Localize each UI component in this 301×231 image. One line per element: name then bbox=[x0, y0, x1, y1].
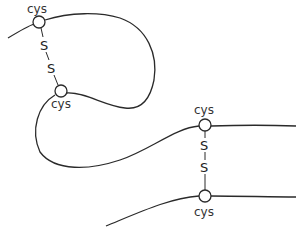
cys-label: cys bbox=[27, 2, 47, 16]
cys-residue-circle bbox=[55, 85, 67, 97]
cys-residue-circle bbox=[199, 119, 211, 131]
bond-line bbox=[41, 28, 43, 37]
bond-line bbox=[54, 75, 58, 85]
cys-label: cys bbox=[51, 97, 71, 111]
sulfur-label: S bbox=[47, 61, 55, 76]
sulfur-label: S bbox=[200, 138, 208, 153]
sulfur-label: S bbox=[40, 38, 48, 53]
cys-residue-circle bbox=[33, 16, 45, 28]
sulfur-label: S bbox=[200, 160, 208, 175]
disulfide-bond-diagram: cys S S cys cys S S cys bbox=[0, 0, 301, 231]
cys-label: cys bbox=[194, 205, 214, 219]
cys-residue-circle bbox=[199, 190, 211, 202]
cys-label: cys bbox=[194, 103, 214, 117]
polypeptide-chain-1 bbox=[8, 14, 296, 168]
bond-line bbox=[46, 52, 49, 60]
